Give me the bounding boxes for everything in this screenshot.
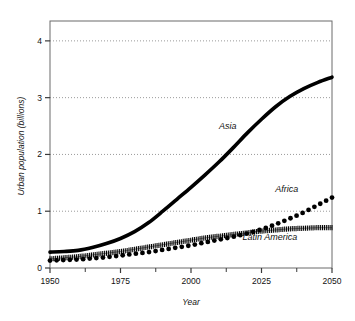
- x-tick-label-2000: 2000: [182, 276, 201, 286]
- annotation-asia: Asia: [218, 121, 237, 131]
- africa-dot: [166, 246, 171, 251]
- annotation-africa: Africa: [274, 184, 298, 194]
- africa-dot: [179, 244, 184, 249]
- africa-dot: [312, 204, 317, 209]
- africa-dot: [212, 238, 217, 243]
- africa-dot: [263, 226, 268, 231]
- x-tick-label-2050: 2050: [323, 276, 342, 286]
- y-axis-ticks: 01234: [37, 36, 50, 273]
- africa-dot: [48, 258, 53, 263]
- y-tick-label-2: 2: [37, 149, 42, 159]
- africa-dot: [87, 256, 92, 261]
- africa-dot: [330, 195, 335, 200]
- africa-dot: [270, 223, 275, 228]
- y-tick-label-0: 0: [37, 263, 42, 273]
- africa-dot: [133, 251, 138, 256]
- x-axis-ticks: 19501975200020252050: [41, 268, 342, 286]
- africa-dot: [288, 216, 293, 221]
- africa-dot: [324, 198, 329, 203]
- africa-dot: [318, 201, 323, 206]
- africa-dot: [140, 250, 145, 255]
- africa-dot: [153, 249, 158, 254]
- africa-dot: [186, 243, 191, 248]
- africa-dot: [294, 213, 299, 218]
- africa-dot: [74, 257, 79, 262]
- africa-dot: [282, 218, 287, 223]
- africa-dot: [300, 211, 305, 216]
- x-tick-label-1975: 1975: [111, 276, 130, 286]
- africa-dot: [94, 256, 99, 261]
- y-axis-title: Urban population (billions): [16, 96, 26, 195]
- africa-dot: [120, 253, 125, 258]
- figure-container: 01234 19501975200020252050 AsiaAfricaLat…: [0, 0, 355, 321]
- y-tick-label-4: 4: [37, 36, 42, 46]
- africa-dot: [173, 245, 178, 250]
- africa-dot: [147, 250, 152, 255]
- annotation-latin-america: Latin America: [243, 232, 298, 242]
- africa-dot: [218, 237, 223, 242]
- africa-dot: [306, 208, 311, 213]
- y-tick-label-1: 1: [37, 206, 42, 216]
- africa-dot: [101, 255, 106, 260]
- africa-dot: [205, 240, 210, 245]
- africa-dot: [114, 254, 119, 259]
- africa-dot: [127, 252, 132, 257]
- y-tick-label-3: 3: [37, 93, 42, 103]
- africa-dot: [225, 236, 230, 241]
- africa-dot: [276, 221, 281, 226]
- africa-dot: [67, 257, 72, 262]
- x-tick-label-2025: 2025: [252, 276, 271, 286]
- africa-dot: [81, 257, 86, 262]
- africa-dot: [199, 241, 204, 246]
- africa-dot: [160, 248, 165, 253]
- urban-population-line-chart: 01234 19501975200020252050 AsiaAfricaLat…: [0, 0, 355, 321]
- africa-dot: [192, 242, 197, 247]
- africa-dot: [107, 254, 112, 259]
- africa-dot: [231, 234, 236, 239]
- x-tick-label-1950: 1950: [41, 276, 60, 286]
- africa-dot: [61, 258, 66, 263]
- x-axis-title: Year: [182, 297, 201, 307]
- africa-dot: [54, 258, 59, 263]
